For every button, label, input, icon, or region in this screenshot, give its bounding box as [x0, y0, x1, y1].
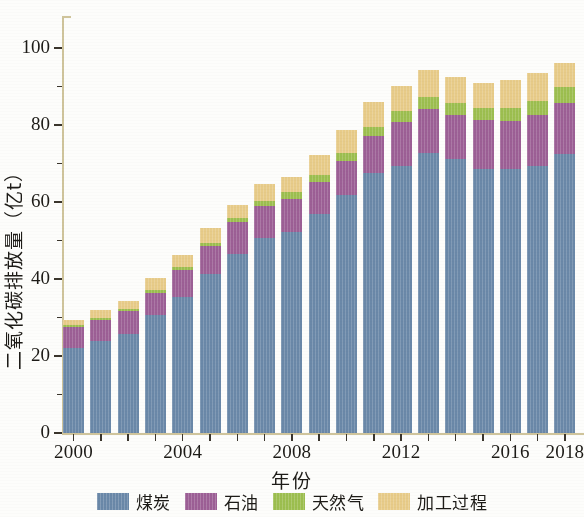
bar-segment-石油-2007	[254, 206, 275, 238]
legend-label-加工过程: 加工过程	[417, 489, 487, 514]
x-tick-2009	[318, 434, 320, 441]
bar-segment-石油-2009	[309, 182, 330, 214]
x-tick-2017	[537, 434, 539, 441]
bar-2006	[227, 205, 248, 433]
bar-segment-加工过程-2009	[309, 155, 330, 174]
x-tick-2004	[182, 434, 184, 441]
x-tick-label-2016: 2016	[491, 441, 530, 463]
bar-segment-天然气-2013	[418, 97, 439, 109]
x-tick-2003	[155, 434, 157, 441]
bar-segment-石油-2016	[500, 121, 521, 169]
bar-segment-煤炭-2016	[500, 169, 521, 433]
bar-segment-石油-2015	[473, 120, 494, 169]
bar-segment-石油-2011	[363, 136, 384, 173]
bar-segment-天然气-2010	[336, 153, 357, 161]
bar-segment-加工过程-2018	[554, 63, 575, 88]
bar-segment-石油-2017	[527, 115, 548, 166]
bar-segment-石油-2010	[336, 161, 357, 195]
x-tick-2016	[510, 434, 512, 441]
bar-2013	[418, 70, 439, 433]
bar-segment-天然气-2017	[527, 101, 548, 115]
bar-segment-天然气-2016	[500, 108, 521, 121]
bar-segment-加工过程-2016	[500, 80, 521, 108]
legend-label-石油: 石油	[224, 489, 259, 514]
legend-item-煤炭[interactable]: 煤炭	[97, 489, 171, 514]
bar-segment-煤炭-2017	[527, 166, 548, 433]
bar-2014	[445, 77, 466, 433]
bar-segment-煤炭-2001	[90, 341, 111, 433]
x-tick-2014	[455, 434, 457, 441]
x-tick-label-2004: 2004	[163, 441, 202, 463]
bar-segment-石油-2014	[445, 115, 466, 159]
bar-segment-煤炭-2015	[473, 169, 494, 433]
bar-segment-天然气-2012	[391, 111, 412, 122]
bar-segment-天然气-2009	[309, 175, 330, 182]
bar-segment-天然气-2018	[554, 87, 575, 103]
bar-segment-煤炭-2000	[63, 348, 84, 433]
x-tick-2012	[400, 434, 402, 441]
legend-item-石油[interactable]: 石油	[185, 489, 259, 514]
bar-segment-石油-2004	[172, 270, 193, 297]
bars-layer	[0, 0, 584, 433]
legend-label-煤炭: 煤炭	[136, 489, 171, 514]
legend-item-天然气[interactable]: 天然气	[273, 489, 365, 514]
x-tick-2011	[373, 434, 375, 441]
bar-segment-煤炭-2006	[227, 254, 248, 433]
bar-segment-天然气-2015	[473, 108, 494, 120]
bar-segment-煤炭-2018	[554, 154, 575, 434]
bar-2005	[200, 228, 221, 433]
bar-2008	[281, 177, 302, 433]
bar-segment-石油-2008	[281, 199, 302, 232]
bar-segment-煤炭-2003	[145, 315, 166, 433]
bar-segment-石油-2002	[118, 311, 139, 333]
bar-segment-加工过程-2003	[145, 278, 166, 290]
bar-segment-石油-2013	[418, 109, 439, 153]
bar-segment-石油-2005	[200, 246, 221, 273]
bar-segment-加工过程-2013	[418, 70, 439, 98]
bar-segment-加工过程-2010	[336, 130, 357, 153]
bar-2000	[63, 320, 84, 433]
x-tick-2005	[209, 434, 211, 441]
bar-segment-煤炭-2005	[200, 274, 221, 433]
x-tick-2013	[428, 434, 430, 441]
bar-segment-加工过程-2011	[363, 102, 384, 127]
bar-2010	[336, 130, 357, 433]
bar-segment-石油-2001	[90, 320, 111, 341]
bar-segment-煤炭-2013	[418, 153, 439, 433]
bar-2001	[90, 310, 111, 433]
bar-2003	[145, 278, 166, 433]
bar-2016	[500, 80, 521, 433]
bar-segment-煤炭-2007	[254, 238, 275, 433]
x-tick-2006	[237, 434, 239, 441]
bar-segment-加工过程-2014	[445, 77, 466, 103]
bar-segment-煤炭-2011	[363, 173, 384, 433]
x-tick-2015	[482, 434, 484, 441]
x-tick-2010	[346, 434, 348, 441]
legend-swatch-石油	[185, 493, 217, 510]
bar-segment-加工过程-2005	[200, 228, 221, 243]
bar-2018	[554, 63, 575, 433]
x-tick-2000	[73, 434, 75, 441]
bar-2017	[527, 73, 548, 433]
bar-segment-石油-2000	[63, 327, 84, 349]
bar-2012	[391, 86, 412, 433]
bar-segment-煤炭-2010	[336, 195, 357, 433]
legend-swatch-加工过程	[378, 493, 410, 510]
bar-segment-加工过程-2012	[391, 86, 412, 111]
legend-swatch-煤炭	[97, 493, 129, 510]
bar-segment-加工过程-2017	[527, 73, 548, 101]
x-tick-2001	[100, 434, 102, 441]
bar-segment-加工过程-2006	[227, 205, 248, 218]
legend-item-加工过程[interactable]: 加工过程	[378, 489, 487, 514]
bar-segment-煤炭-2004	[172, 297, 193, 433]
bar-segment-煤炭-2002	[118, 334, 139, 433]
bar-segment-加工过程-2004	[172, 255, 193, 267]
bar-segment-天然气-2011	[363, 127, 384, 136]
bar-segment-煤炭-2008	[281, 232, 302, 433]
bar-segment-煤炭-2014	[445, 159, 466, 433]
bar-segment-石油-2012	[391, 122, 412, 166]
bar-segment-煤炭-2012	[391, 166, 412, 433]
emissions-stacked-bar-chart: 020406080100 二氧化碳排放量（亿t） 200020042008201…	[0, 0, 584, 517]
bar-segment-加工过程-2008	[281, 177, 302, 193]
x-tick-2002	[127, 434, 129, 441]
